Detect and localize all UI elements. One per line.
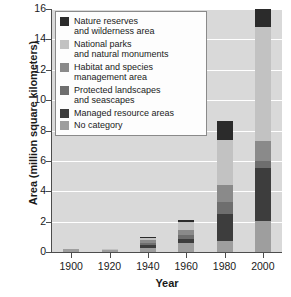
legend-item-1[interactable]: National parks and natural monuments [60,39,203,59]
table-row[interactable] [178,220,194,252]
table-row[interactable] [140,237,156,252]
bar-segment [255,168,271,221]
stacked-bar-chart: Area (million square kilometers) 0246810… [0,0,291,297]
legend-swatch-icon [60,86,69,95]
y-tick [46,252,52,253]
legend-item-2[interactable]: Habitat and species management area [60,62,203,82]
y-tick-label: 10 [6,93,46,105]
bar-segment [217,140,233,185]
y-tick-label: 4 [6,184,46,196]
legend-swatch-icon [60,63,69,72]
x-tick [263,253,264,258]
table-row[interactable] [217,121,233,252]
bar-segment [217,185,233,202]
legend-swatch-icon [60,109,69,118]
bar-segment [255,9,271,27]
table-row[interactable] [255,9,271,252]
x-axis-title: Year [52,277,282,289]
legend-item-4[interactable]: Managed resource areas [60,108,203,118]
y-tick-label: 0 [6,245,46,257]
y-tick [46,39,52,40]
y-tick-label: 12 [6,63,46,75]
y-tick [46,70,52,71]
bar-segment [255,221,271,252]
y-tick [46,9,52,10]
legend-item-label: Managed resource areas [74,108,174,118]
x-tick [186,253,187,258]
chart-legend: Nature reserves and wilderness areaNatio… [55,11,207,136]
bar-segment [217,202,233,214]
legend-swatch-icon [60,40,69,49]
y-tick-label: 8 [6,124,46,136]
x-tick [225,253,226,258]
gridline [52,222,282,223]
x-tick [71,253,72,258]
legend-item-label: Nature reserves and wilderness area [74,16,155,36]
bar-segment [217,214,233,241]
legend-item-0[interactable]: Nature reserves and wilderness area [60,16,203,36]
y-tick [46,161,52,162]
legend-swatch-icon [60,121,69,130]
gridline [52,9,282,10]
legend-item-label: No category [74,120,123,130]
x-axis-line [51,252,282,253]
y-tick [46,222,52,223]
legend-item-label: Habitat and species management area [74,62,153,82]
legend-item-label: National parks and natural monuments [74,39,169,59]
bar-segment [217,241,233,252]
y-tick-label: 6 [6,154,46,166]
bar-segment [178,243,194,252]
bar-segment [255,141,271,160]
legend-item-5[interactable]: No category [60,120,203,130]
y-tick [46,191,52,192]
gridline [52,161,282,162]
gridline [52,191,282,192]
legend-item-label: Protected landscapes and seascapes [74,85,161,105]
x-tick-label: 2000 [241,260,285,272]
bar-segment [255,27,271,141]
x-tick [110,253,111,258]
bar-segment [178,222,194,229]
x-tick [148,253,149,258]
legend-item-3[interactable]: Protected landscapes and seascapes [60,85,203,105]
y-tick [46,131,52,132]
y-tick-label: 16 [6,2,46,14]
y-tick-label: 14 [6,32,46,44]
bar-segment [217,121,233,139]
y-tick-label: 2 [6,215,46,227]
y-tick [46,100,52,101]
legend-swatch-icon [60,17,69,26]
bar-segment [255,161,271,169]
